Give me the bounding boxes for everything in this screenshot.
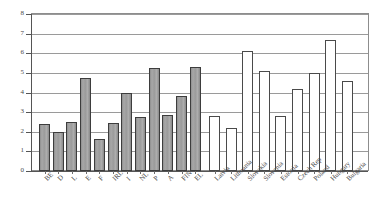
bar [121, 93, 132, 171]
bar [342, 81, 353, 171]
bar [259, 71, 270, 171]
y-axis-tick-label: 0 [0, 167, 24, 174]
bar [190, 67, 201, 171]
bar [325, 40, 336, 171]
y-axis-tick-label: 7 [0, 30, 24, 37]
x-axis-tick-label: L [70, 174, 79, 183]
y-axis-tick [26, 171, 31, 172]
y-axis-tick-label: 5 [0, 69, 24, 76]
bar [162, 115, 173, 171]
y-axis-tick-label: 1 [0, 147, 24, 154]
bar-chart: 012345678 BEDLEFIRLINLPAFINELLatviaLithu… [0, 0, 390, 212]
bar [66, 122, 77, 171]
bar [226, 128, 237, 171]
x-axis-tick-label: D [56, 173, 65, 182]
bar [94, 139, 105, 171]
plot-area [31, 14, 368, 171]
x-axis-tick-label: I [125, 175, 132, 182]
x-axis-tick-label: A [166, 173, 175, 182]
y-axis-tick-label: 2 [0, 128, 24, 135]
bar [53, 132, 64, 171]
y-axis-tick-label: 6 [0, 49, 24, 56]
x-axis-tick [127, 171, 128, 174]
bar [80, 78, 91, 171]
bar [292, 89, 303, 171]
bar [176, 96, 187, 171]
y-axis-tick-label: 8 [0, 10, 24, 17]
bar [149, 68, 160, 171]
bar [108, 123, 119, 171]
y-axis-tick-label: 3 [0, 108, 24, 115]
x-axis-tick-label: P [152, 174, 160, 182]
y-axis-tick-label: 4 [0, 89, 24, 96]
bar [135, 117, 146, 171]
x-axis-tick-label: E [84, 174, 93, 183]
bar [39, 124, 50, 171]
y-axis-labels: 012345678 [0, 0, 24, 212]
bar [242, 51, 253, 171]
x-axis-tick-label: F [97, 174, 105, 182]
bar [209, 116, 220, 171]
